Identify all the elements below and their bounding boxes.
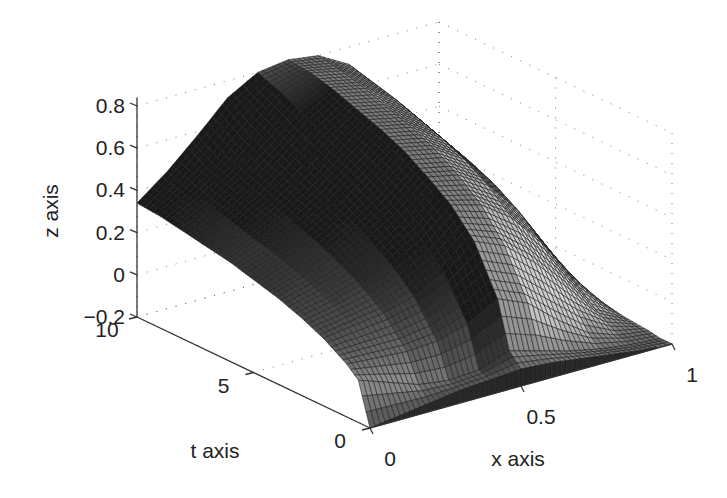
surface-front-wall xyxy=(521,368,526,386)
surface-front-wall xyxy=(546,363,551,379)
t-axis-label: t axis xyxy=(190,439,239,462)
surface-front-wall xyxy=(516,369,521,387)
surface-front-wall xyxy=(536,365,541,382)
t-tick xyxy=(362,428,370,430)
x-tick xyxy=(521,386,524,392)
z-tick-label: 0.8 xyxy=(96,94,125,117)
surface-front-wall xyxy=(526,367,531,385)
surface-front-wall xyxy=(501,374,506,391)
surface-front-wall xyxy=(491,378,496,395)
surface-front-wall xyxy=(481,381,486,397)
z-tick-label: 0.4 xyxy=(96,178,126,201)
surface-front-wall xyxy=(461,388,466,402)
z-tick xyxy=(130,314,137,317)
surface-front-wall xyxy=(511,371,516,389)
t-tick xyxy=(246,373,254,375)
surface-front-wall xyxy=(531,366,536,383)
x-tick xyxy=(672,344,675,350)
surface-front-wall xyxy=(551,362,556,378)
t-tick xyxy=(129,317,137,319)
x-tick-label: 1 xyxy=(686,363,698,386)
surface-plot: z axis t axis x axis −0.200.20.40.60.805… xyxy=(0,0,727,498)
surface-front-wall xyxy=(471,385,476,400)
surface-front-wall xyxy=(571,359,576,372)
surface-front-wall xyxy=(486,380,491,396)
z-tick xyxy=(130,230,137,233)
surface-front-wall xyxy=(556,361,561,376)
surface-front-wall xyxy=(496,376,501,393)
surface-front-wall xyxy=(566,360,571,373)
surface-front-wall xyxy=(561,361,566,375)
x-tick xyxy=(370,428,373,434)
z-tick-label: 0.2 xyxy=(96,221,125,244)
x-axis-label: x axis xyxy=(491,447,545,470)
t-tick-label: 10 xyxy=(95,318,118,341)
grid-line-z xyxy=(439,64,672,175)
z-tick-label: 0.6 xyxy=(96,136,125,159)
z-tick-label: 0 xyxy=(113,263,125,286)
surface-front-wall xyxy=(476,383,481,399)
x-tick-label: 0.5 xyxy=(526,405,555,428)
x-tick-label: 0 xyxy=(384,447,396,470)
t-tick-label: 5 xyxy=(218,374,230,397)
surface-front-wall xyxy=(541,364,546,381)
t-tick-label: 0 xyxy=(334,429,346,452)
surface-front-wall xyxy=(446,394,451,407)
z-tick xyxy=(130,103,137,106)
surface-front-wall xyxy=(466,387,471,402)
z-tick xyxy=(130,145,137,148)
surface-front-wall xyxy=(506,373,511,391)
surface-front-wall xyxy=(456,390,461,404)
surface-mesh xyxy=(137,56,672,428)
surface-front-wall xyxy=(451,392,456,405)
z-tick xyxy=(130,187,137,190)
z-tick xyxy=(130,272,137,275)
z-axis-label: z axis xyxy=(39,184,62,238)
